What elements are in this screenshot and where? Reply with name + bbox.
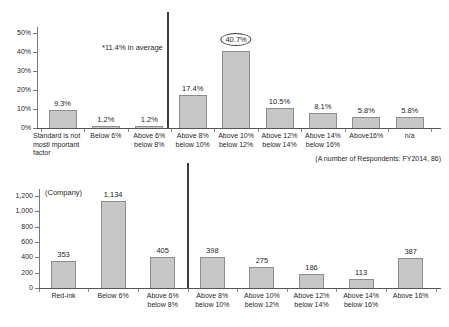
bar bbox=[101, 201, 126, 288]
dual-bar-chart-figure: 50%40%30%20%10%0%9.3%Standard is notmost… bbox=[0, 0, 449, 327]
y-tick-label: 400 bbox=[0, 253, 33, 260]
bar-value-label: 1,134 bbox=[104, 190, 123, 199]
y-tick-label: 1,000 bbox=[0, 207, 33, 214]
y-tick-label: 600 bbox=[0, 238, 33, 245]
bar-value-label: 398 bbox=[206, 246, 219, 255]
company-count-chart: 1,2001,0008006004002000353Red-ink1,134Be… bbox=[0, 0, 449, 327]
bar bbox=[349, 279, 374, 288]
y-axis-tick bbox=[35, 227, 39, 228]
bar bbox=[150, 257, 175, 288]
x-axis-line bbox=[39, 288, 441, 289]
average-annotation: *11.4% in average bbox=[102, 43, 163, 52]
respondents-footnote: (A number of Respondents: FY2014, 86) bbox=[241, 155, 441, 162]
y-axis-tick bbox=[35, 211, 39, 212]
bar-value-label: 186 bbox=[305, 263, 318, 272]
bar bbox=[249, 267, 274, 288]
bar-value-label: 113 bbox=[355, 268, 367, 277]
y-axis-tick bbox=[35, 242, 39, 243]
bar-value-label: 353 bbox=[57, 250, 70, 259]
bar bbox=[200, 257, 225, 288]
company-axis-unit-label: (Company) bbox=[45, 188, 82, 197]
bar-value-label: 387 bbox=[404, 247, 417, 256]
y-axis-line bbox=[39, 189, 40, 288]
y-tick-label: 800 bbox=[0, 223, 33, 230]
y-axis-tick bbox=[35, 257, 39, 258]
bar bbox=[398, 258, 423, 288]
bar-value-label: 275 bbox=[256, 256, 269, 265]
bar bbox=[299, 274, 324, 288]
category-label: Above 16% bbox=[382, 292, 440, 301]
y-axis-tick bbox=[35, 196, 39, 197]
y-tick-label: 200 bbox=[0, 269, 33, 276]
group-separator-line bbox=[187, 163, 189, 288]
bar bbox=[51, 261, 76, 288]
y-axis-tick bbox=[35, 273, 39, 274]
bar-value-label: 405 bbox=[156, 246, 169, 255]
y-tick-label: 1,200 bbox=[0, 192, 33, 199]
y-tick-label: 0 bbox=[0, 284, 33, 291]
